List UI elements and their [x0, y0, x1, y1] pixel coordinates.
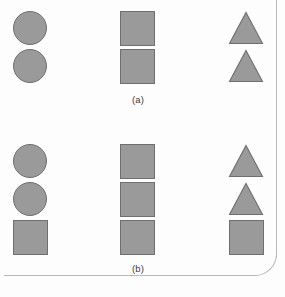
shape-slot	[119, 48, 155, 84]
shape-column	[12, 143, 48, 257]
shape-slot	[119, 181, 155, 217]
triangle-shape	[228, 11, 264, 45]
shape-slot	[12, 48, 48, 84]
shape-group-a: (a)	[0, 10, 276, 86]
page-edge-horizontal-line	[4, 275, 256, 276]
circle-shape	[13, 182, 47, 216]
shape-slot	[119, 219, 155, 255]
shape-group-a-caption: (a)	[0, 94, 276, 105]
square-shape	[120, 182, 155, 217]
shape-column	[119, 10, 155, 86]
circle-shape	[13, 11, 47, 45]
shape-slot	[228, 48, 264, 84]
shape-slot	[12, 10, 48, 46]
shape-slot	[228, 10, 264, 46]
shape-column	[119, 143, 155, 257]
shape-slot	[119, 10, 155, 46]
shape-group-b: (b)	[0, 143, 276, 257]
page-edge-vertical-line	[276, 0, 277, 258]
square-shape	[120, 144, 155, 179]
shape-slot	[228, 181, 264, 217]
square-shape	[120, 11, 155, 46]
square-shape	[229, 220, 264, 255]
shape-slot	[12, 181, 48, 217]
circle-shape	[13, 49, 47, 83]
circle-shape	[13, 144, 47, 178]
shape-column	[228, 10, 264, 86]
triangle-shape	[228, 144, 264, 178]
shape-slot	[12, 219, 48, 255]
square-shape	[120, 49, 155, 84]
square-shape	[13, 220, 48, 255]
shape-column	[12, 10, 48, 86]
shape-slot	[228, 219, 264, 255]
shape-slot	[12, 143, 48, 179]
triangle-shape	[228, 49, 264, 83]
square-shape	[120, 220, 155, 255]
triangle-shape	[228, 182, 264, 216]
shape-column	[228, 143, 264, 257]
shape-group-b-caption: (b)	[0, 263, 276, 274]
figure-page: (a) (b)	[0, 0, 285, 297]
shape-group-a-columns	[0, 10, 276, 86]
shape-group-b-columns	[0, 143, 276, 257]
shape-slot	[228, 143, 264, 179]
shape-slot	[119, 143, 155, 179]
